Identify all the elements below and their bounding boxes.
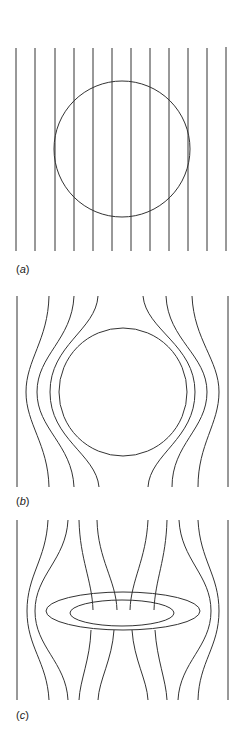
label-paren: ) [25, 709, 29, 721]
panel-c-ring-outer [46, 592, 200, 630]
panel-b-field-lines [17, 296, 228, 487]
figure-canvas [0, 0, 244, 746]
label-paren: ) [26, 263, 30, 275]
panel-a [16, 47, 226, 251]
panel-b-label: (b) [16, 495, 29, 507]
panel-a-label: (a) [16, 263, 29, 275]
panel-c-field-lines [17, 520, 228, 700]
panel-c-label: (c) [16, 709, 29, 721]
label-paren: ) [26, 495, 30, 507]
panel-c-ring-inner [70, 600, 174, 626]
panel-a-field-lines [16, 47, 226, 251]
panel-c [17, 520, 228, 700]
panel-b [17, 296, 228, 487]
panel-b-sphere [59, 328, 187, 456]
